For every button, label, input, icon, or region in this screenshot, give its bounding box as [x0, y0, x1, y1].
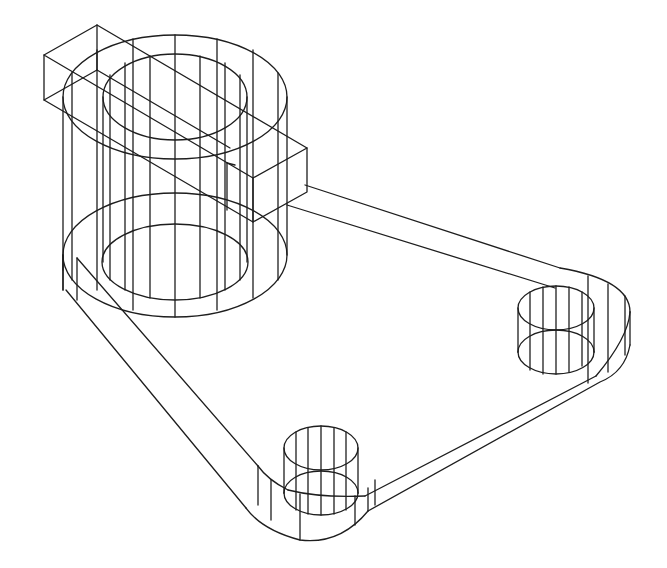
cad-drawing-canvas	[0, 0, 667, 568]
mounting-hole-right	[518, 286, 594, 374]
mounting-hole-bottom	[284, 426, 358, 515]
